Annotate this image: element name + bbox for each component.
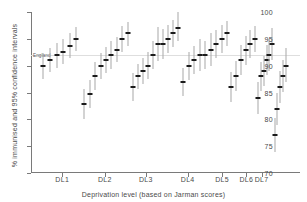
data-point-marker	[87, 93, 92, 95]
y-axis-tick	[27, 146, 31, 147]
data-point-marker	[224, 32, 229, 34]
data-point-marker	[125, 32, 130, 34]
x-axis-tick-label-dl1: DL1	[55, 176, 69, 183]
y-axis-tick-label: 80	[265, 116, 273, 123]
data-point-marker	[219, 38, 224, 40]
data-point-marker	[269, 43, 274, 45]
england-reference-label: England	[33, 52, 51, 57]
y-axis-tick	[27, 93, 31, 94]
data-point-marker	[229, 86, 234, 88]
data-point-marker	[171, 32, 176, 34]
y-axis-tick-label: 95	[265, 35, 273, 42]
y-axis-tick-label: 75	[265, 143, 273, 150]
x-axis-label: Deprivation level (based on Jarman score…	[0, 191, 307, 198]
data-point-marker	[131, 86, 136, 88]
data-point-marker	[214, 43, 219, 45]
y-axis-tick-label: 100	[260, 9, 273, 16]
x-axis-tick-label-dl7: DL7	[255, 176, 269, 183]
data-point-marker	[104, 59, 109, 61]
data-point-marker	[238, 59, 243, 61]
data-point-marker	[161, 43, 166, 45]
y-axis-tick	[27, 39, 31, 40]
data-point-marker	[272, 134, 277, 136]
data-point-marker	[252, 38, 257, 40]
data-point-marker	[208, 49, 213, 51]
data-point-marker	[109, 54, 114, 56]
data-point-marker	[175, 27, 180, 29]
data-point-marker	[234, 75, 239, 77]
y-axis-tick	[27, 66, 31, 67]
x-axis-tick-label-dl6: DL6	[240, 176, 254, 183]
plot-area: England	[31, 12, 300, 173]
data-point-marker	[136, 75, 141, 77]
y-axis-tick	[27, 12, 31, 13]
data-point-marker	[151, 54, 156, 56]
data-point-marker	[61, 51, 66, 53]
data-point-marker	[82, 103, 87, 105]
data-point-marker	[98, 65, 103, 67]
data-point-marker	[181, 81, 186, 83]
data-point-marker	[114, 49, 119, 51]
data-point-marker	[203, 54, 208, 56]
data-point-marker	[54, 54, 59, 56]
x-axis-tick-label-dl4: DL4	[181, 176, 195, 183]
y-axis-tick-label: 90	[265, 62, 273, 69]
data-point-marker	[275, 108, 280, 110]
x-axis-tick-label-dl2: DL2	[98, 176, 112, 183]
england-reference-line	[31, 55, 300, 56]
data-point-marker	[41, 65, 46, 67]
y-axis-label: % immunised and 95% confidence intervals	[11, 16, 18, 176]
data-point-marker	[146, 65, 151, 67]
clipped-top-caption	[0, 0, 307, 3]
data-point-marker	[67, 45, 72, 47]
y-axis-tick-label: 85	[265, 89, 273, 96]
data-point-marker	[243, 49, 248, 51]
data-point-marker	[47, 59, 52, 61]
data-point-marker	[120, 38, 125, 40]
data-point-marker	[141, 70, 146, 72]
data-point-marker	[74, 38, 79, 40]
data-point-marker	[192, 59, 197, 61]
x-axis-tick-label-dl5: DL5	[215, 176, 229, 183]
data-point-marker	[283, 65, 288, 67]
data-point-marker	[186, 65, 191, 67]
y-axis-tick	[27, 119, 31, 120]
chart-figure: % immunised and 95% confidence intervals…	[0, 0, 307, 202]
x-axis-tick-label-dl3: DL3	[139, 176, 153, 183]
data-point-marker	[93, 75, 98, 77]
data-point-marker	[248, 43, 253, 45]
data-point-marker	[256, 97, 261, 99]
y-axis-tick	[27, 173, 31, 174]
data-point-marker	[166, 38, 171, 40]
data-point-marker	[197, 54, 202, 56]
